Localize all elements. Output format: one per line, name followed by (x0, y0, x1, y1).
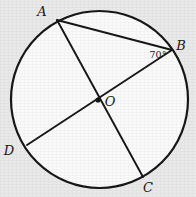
center-label-o: O (105, 94, 116, 109)
center-point-dot (95, 97, 100, 102)
point-label-c: C (143, 180, 153, 195)
geometry-canvas: A B C D O 70° (0, 0, 196, 197)
angle-label-abd: 70° (150, 49, 167, 60)
geometry-figure: A B C D O 70° (0, 0, 196, 197)
point-label-d: D (3, 143, 15, 158)
point-label-a: A (36, 4, 46, 19)
point-label-b: B (175, 38, 186, 53)
